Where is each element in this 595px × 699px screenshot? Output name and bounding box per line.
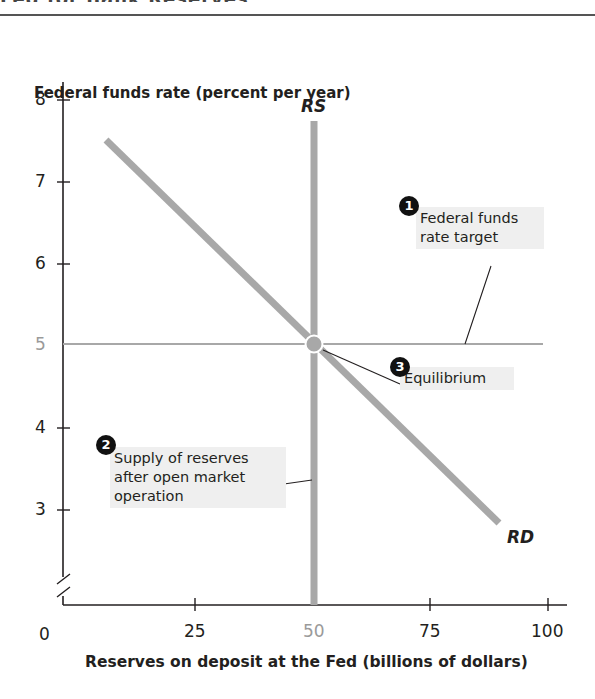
y-tick-4: 4 <box>35 417 46 437</box>
annotation-equilibrium: Equilibrium <box>400 367 514 390</box>
annotation-target-line2: rate target <box>420 228 540 247</box>
badge-3: 3 <box>390 357 410 377</box>
y-tick-6: 6 <box>35 253 46 273</box>
y-tick-8: 8 <box>35 89 46 109</box>
rs-label: RS <box>301 96 326 116</box>
x-tick-25: 25 <box>184 621 206 641</box>
y-tick-7: 7 <box>35 171 46 191</box>
chart-canvas <box>0 0 595 699</box>
annotation-target: Federal funds rate target <box>416 207 544 249</box>
annotation-supply-line2: after open market <box>114 468 282 487</box>
annotation-supply-line1: Supply of reserves <box>114 449 282 468</box>
badge-2: 2 <box>96 435 116 455</box>
annotation-target-line1: Federal funds <box>420 209 540 228</box>
x-tick-50: 50 <box>303 621 325 641</box>
x-tick-75: 75 <box>419 621 441 641</box>
x-axis-label: Reserves on deposit at the Fed (billions… <box>85 653 528 671</box>
leader-line-1 <box>465 266 491 344</box>
equilibrium-point <box>306 336 323 353</box>
annotation-supply: Supply of reserves after open market ope… <box>110 447 286 508</box>
x-tick-0: 0 <box>39 624 50 644</box>
y-tick-5: 5 <box>35 334 46 354</box>
leader-line-2 <box>284 480 312 484</box>
annotation-supply-line3: operation <box>114 487 282 506</box>
y-tick-3: 3 <box>35 499 46 519</box>
x-tick-100: 100 <box>531 621 563 641</box>
badge-1: 1 <box>399 196 419 216</box>
axis-break-icon <box>57 574 70 597</box>
annotation-equilibrium-text: Equilibrium <box>404 369 510 388</box>
rd-label: RD <box>507 527 534 547</box>
